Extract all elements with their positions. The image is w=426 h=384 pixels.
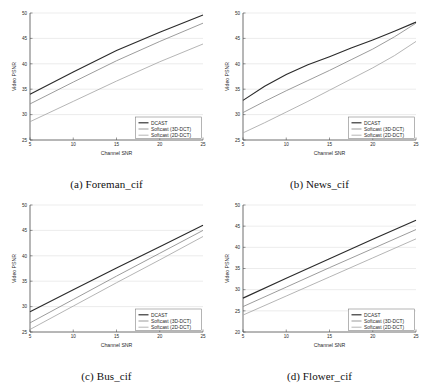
x-tick-label: 5 [29,334,32,339]
legend-label: Softcast (3D-DCT) [151,319,192,324]
x-tick-label: 25 [413,142,419,147]
x-tick-label: 25 [200,334,206,339]
x-tick-label: 20 [157,142,163,147]
x-tick-label: 15 [114,142,120,147]
legend-label: DCAST [364,121,381,126]
x-tick-label: 10 [284,142,290,147]
x-tick-label: 15 [327,142,333,147]
y-tick-label: 45 [235,36,241,41]
x-tick-label: 25 [413,334,419,339]
y-axis-label: Video PSNR [224,62,230,91]
y-tick-label: 30 [235,112,241,117]
plot-area: 253035404550510152025Channel SNRVideo PS… [0,196,213,358]
y-tick-label: 50 [235,11,241,16]
y-tick-label: 45 [235,224,241,229]
caption-b: (b) News_cif [213,178,426,190]
legend-label: Softcast (3D-DCT) [151,127,192,132]
x-tick-label: 25 [200,142,206,147]
y-tick-label: 40 [22,62,28,67]
y-tick-label: 45 [22,228,28,233]
legend-label: Softcast (3D-DCT) [364,127,405,132]
x-axis-label: Channel SNR [101,150,133,156]
x-tick-label: 20 [370,334,376,339]
plot-area: 253035404550510152025Channel SNRVideo PS… [0,4,213,166]
x-tick-label: 10 [71,142,77,147]
legend-label: DCAST [151,313,168,318]
y-tick-label: 25 [22,330,28,335]
y-tick-label: 50 [22,203,28,208]
legend-label: Softcast (2D-DCT) [151,133,192,138]
panel-a: 253035404550510152025Channel SNRVideo PS… [0,0,213,192]
legend-label: Softcast (2D-DCT) [151,325,192,330]
legend-label: DCAST [151,121,168,126]
y-tick-label: 50 [235,203,241,208]
chart-d: 20253035404550510152025Channel SNRVideo … [213,196,426,358]
x-tick-label: 20 [370,142,376,147]
y-tick-label: 35 [22,87,28,92]
legend: DCASTSoftcast (3D-DCT)Softcast (2D-DCT) [136,309,202,331]
plot-area: 20253035404550510152025Channel SNRVideo … [213,196,426,358]
y-tick-label: 35 [22,279,28,284]
plot-area: 253035404550510152025Channel SNRVideo PS… [213,4,426,166]
chart-c: 253035404550510152025Channel SNRVideo PS… [0,196,213,358]
y-tick-label: 40 [235,62,241,67]
legend-label: Softcast (2D-DCT) [364,325,405,330]
chart-a: 253035404550510152025Channel SNRVideo PS… [0,4,213,166]
y-tick-label: 40 [22,254,28,259]
y-tick-label: 30 [22,112,28,117]
y-tick-label: 35 [235,266,241,271]
panel-c: 253035404550510152025Channel SNRVideo PS… [0,192,213,384]
y-tick-label: 30 [235,287,241,292]
x-axis-label: Channel SNR [101,342,133,348]
caption-a: (a) Foreman_cif [0,178,213,190]
x-axis-label: Channel SNR [314,150,346,156]
y-tick-label: 45 [22,36,28,41]
y-tick-label: 25 [235,138,241,143]
x-tick-label: 20 [157,334,163,339]
y-axis-label: Video PSNR [11,62,17,91]
legend-label: Softcast (2D-DCT) [364,133,405,138]
y-tick-label: 30 [22,304,28,309]
x-tick-label: 10 [284,334,290,339]
y-tick-label: 25 [235,309,241,314]
legend: DCASTSoftcast (3D-DCT)Softcast (2D-DCT) [136,117,202,139]
legend: DCASTSoftcast (3D-DCT)Softcast (2D-DCT) [349,117,415,139]
x-tick-label: 5 [29,142,32,147]
x-axis-label: Channel SNR [314,342,346,348]
x-tick-label: 15 [114,334,120,339]
y-axis-label: Video PSNR [11,254,17,283]
x-tick-label: 15 [327,334,333,339]
y-tick-label: 50 [22,11,28,16]
y-tick-label: 40 [235,245,241,250]
y-tick-label: 25 [22,138,28,143]
chart-b: 253035404550510152025Channel SNRVideo PS… [213,4,426,166]
legend-label: Softcast (3D-DCT) [364,319,405,324]
x-tick-label: 5 [242,142,245,147]
figure-grid: 253035404550510152025Channel SNRVideo PS… [0,0,426,384]
legend-label: DCAST [364,313,381,318]
caption-c: (c) Bus_cif [0,370,213,382]
x-tick-label: 5 [242,334,245,339]
y-axis-label: Video PSNR [224,254,230,283]
y-tick-label: 20 [235,330,241,335]
panel-d: 20253035404550510152025Channel SNRVideo … [213,192,426,384]
y-tick-label: 35 [235,87,241,92]
x-tick-label: 10 [71,334,77,339]
legend: DCASTSoftcast (3D-DCT)Softcast (2D-DCT) [349,309,415,331]
panel-b: 253035404550510152025Channel SNRVideo PS… [213,0,426,192]
caption-d: (d) Flower_cif [213,370,426,382]
